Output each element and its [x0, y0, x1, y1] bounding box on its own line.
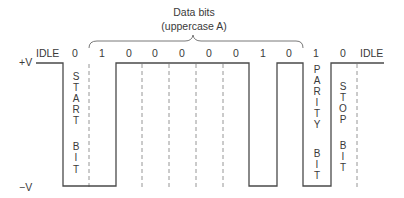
- svg-text:A: A: [314, 75, 321, 86]
- bit-label-d5: 0: [233, 47, 239, 59]
- bit-label-start: 0: [72, 47, 78, 59]
- bit-label-d3: 0: [179, 47, 185, 59]
- bit-label-d2: 0: [152, 47, 158, 59]
- parity-bit-label: P A R I T Y B I T: [313, 64, 320, 181]
- svg-text:Y: Y: [314, 119, 321, 130]
- data-bits-subtitle: (uppercase A): [161, 20, 226, 32]
- svg-text:T: T: [340, 92, 346, 103]
- bit-label-d1: 0: [126, 47, 132, 59]
- svg-text:P: P: [340, 114, 347, 125]
- bit-label-d7: 0: [286, 47, 292, 59]
- svg-text:R: R: [72, 104, 79, 115]
- svg-text:O: O: [339, 103, 347, 114]
- svg-text:I: I: [316, 97, 319, 108]
- svg-text:I: I: [342, 151, 345, 162]
- svg-text:I: I: [316, 159, 319, 170]
- svg-text:S: S: [73, 71, 80, 82]
- bit-label-parity: 1: [313, 47, 319, 59]
- signal-waveform: [36, 63, 384, 186]
- svg-text:T: T: [314, 108, 320, 119]
- data-bits-title: Data bits: [173, 6, 214, 18]
- bit-label-d0: 1: [99, 47, 105, 59]
- svg-text:S: S: [340, 81, 347, 92]
- bit-label-d4: 0: [206, 47, 212, 59]
- svg-text:B: B: [314, 148, 321, 159]
- svg-text:B: B: [340, 140, 347, 151]
- svg-text:T: T: [73, 115, 79, 126]
- svg-text:B: B: [73, 141, 80, 152]
- idle-right-label: IDLE: [360, 47, 383, 59]
- svg-text:P: P: [314, 64, 321, 75]
- svg-text:A: A: [73, 93, 80, 104]
- idle-left-label: IDLE: [36, 47, 59, 59]
- bit-label-d6: 1: [260, 47, 266, 59]
- svg-text:T: T: [314, 170, 320, 181]
- svg-text:T: T: [340, 162, 346, 173]
- svg-text:R: R: [313, 86, 320, 97]
- start-bit-label: S T A R T B I T: [72, 71, 79, 175]
- svg-text:T: T: [73, 82, 79, 93]
- negative-voltage-label: −V: [19, 181, 32, 193]
- bit-value-labels: 0 1 0 0 0 0 0 1 0 1 0: [72, 47, 346, 59]
- svg-text:T: T: [73, 164, 79, 175]
- stop-bit-label: S T O P B I T: [339, 81, 347, 173]
- positive-voltage-label: +V: [19, 56, 32, 68]
- svg-text:I: I: [75, 152, 78, 163]
- bit-label-stop: 0: [340, 47, 346, 59]
- data-bits-brace: [89, 35, 303, 48]
- serial-timing-diagram: Data bits (uppercase A) +V −V IDLE IDLE …: [0, 0, 404, 198]
